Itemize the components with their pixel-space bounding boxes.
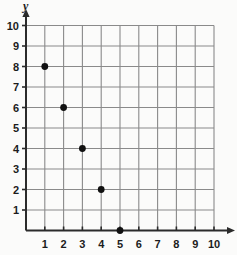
x-tick-label: 4	[98, 239, 104, 250]
grid-lines	[26, 26, 214, 231]
x-axis-arrow	[227, 227, 235, 234]
x-tick-label: 5	[117, 239, 123, 250]
x-tick-label: 2	[61, 239, 67, 250]
y-tick-label: 10	[7, 20, 19, 31]
axis-lines	[22, 9, 235, 234]
y-tick-label: 5	[13, 123, 19, 134]
y-tick-label: 4	[13, 143, 19, 154]
x-tick-label: 3	[79, 239, 85, 250]
y-tick-label: 7	[13, 82, 19, 93]
data-point	[98, 186, 105, 193]
plot-area	[0, 0, 237, 255]
x-tick-label: 8	[173, 239, 179, 250]
x-tick-label: 1	[42, 239, 48, 250]
data-point	[117, 227, 124, 234]
y-tick-label: 1	[13, 205, 19, 216]
data-point	[41, 63, 48, 70]
y-tick-label: 8	[13, 61, 19, 72]
y-tick-label: 3	[13, 164, 19, 175]
y-tick-label: 2	[13, 184, 19, 195]
x-tick-label: 6	[136, 239, 142, 250]
x-tick-label: 7	[155, 239, 161, 250]
x-tick-label: 9	[192, 239, 198, 250]
data-point	[79, 145, 86, 152]
y-axis-label: y	[23, 0, 28, 12]
y-tick-label: 9	[13, 41, 19, 52]
data-point	[60, 104, 67, 111]
coordinate-grid-chart: 12345678910 12345678910 y	[0, 0, 237, 255]
x-tick-label: 10	[208, 239, 220, 250]
y-tick-label: 6	[13, 102, 19, 113]
